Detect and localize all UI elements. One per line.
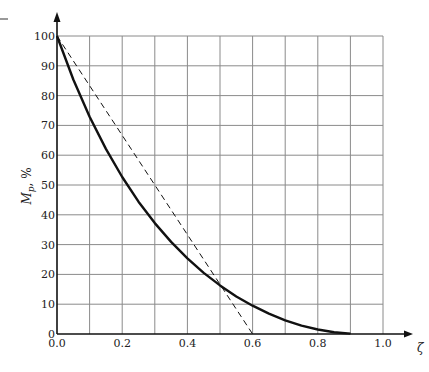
x-axis-arrow-icon: [404, 331, 413, 338]
x-tick-label: 0.2: [113, 337, 131, 350]
x-tick-label: 0.4: [179, 337, 197, 350]
y-axis-arrow-icon: [54, 12, 61, 22]
y-tick-label: 100: [34, 30, 55, 43]
y-tick-label: 10: [41, 298, 55, 311]
y-tick-label: 50: [41, 179, 55, 192]
y-axis-label: Mp, %: [20, 167, 36, 205]
y-tick-label: 40: [41, 209, 55, 222]
grid-lines: [57, 36, 383, 334]
y-tick-label: 90: [41, 60, 55, 73]
y-tick-label: 60: [41, 149, 55, 162]
x-tick-label: 0.8: [309, 337, 327, 350]
x-axis-label: ζ: [417, 341, 425, 355]
x-tick-label: 1.0: [374, 337, 392, 350]
y-tick-label: 70: [41, 119, 55, 132]
y-tick-label: 30: [41, 239, 55, 252]
x-tick-labels: 0.00.20.40.60.81.0: [48, 337, 392, 350]
y-tick-label: 20: [41, 268, 55, 281]
svg-text:Mp, %: Mp, %: [20, 167, 36, 205]
y-tick-labels: 0102030405060708090100: [34, 30, 55, 341]
overshoot-chart: 0102030405060708090100 0.00.20.40.60.81.…: [0, 0, 429, 372]
y-tick-label: 80: [41, 90, 55, 103]
x-tick-label: 0.6: [244, 337, 262, 350]
axes: [54, 12, 414, 338]
x-tick-label: 0.0: [48, 337, 66, 350]
